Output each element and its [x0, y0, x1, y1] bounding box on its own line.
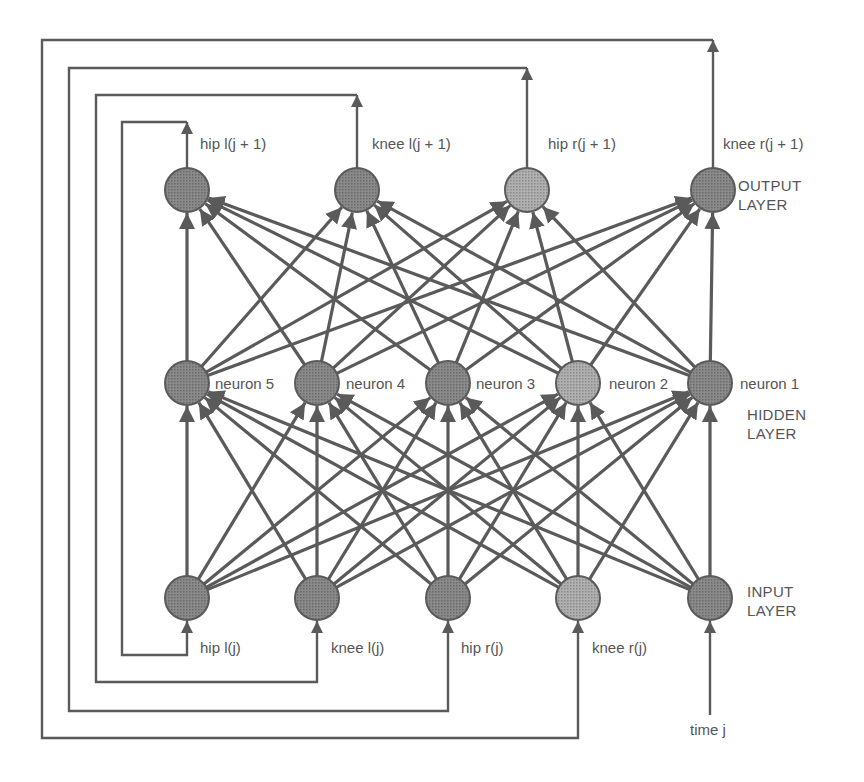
edge-h3-out1	[205, 204, 430, 370]
edge-h2-out1	[208, 200, 559, 373]
input-node-in2	[295, 576, 339, 620]
input-label-hip-r: hip r(j)	[461, 640, 504, 655]
edge-h1-out4	[710, 213, 712, 361]
hidden-label-neuron-4: neuron 4	[346, 376, 405, 391]
edge-h2-out3	[533, 212, 573, 361]
hidden-label-neuron-1: neuron 1	[740, 376, 799, 391]
hidden-label-neuron-2: neuron 2	[609, 376, 668, 391]
input-node-in1	[165, 576, 209, 620]
output-label-hip-r: hip r(j + 1)	[548, 136, 616, 151]
output-node-out2	[335, 168, 379, 212]
output-node-out1	[165, 168, 209, 212]
network-diagram	[0, 0, 864, 782]
edge-h4-out1	[200, 209, 305, 365]
edge-h4-out2	[321, 213, 352, 362]
edge-h4-out3	[333, 206, 510, 369]
output-label-knee-r: knee r(j + 1)	[723, 136, 803, 151]
input-node-in3	[426, 576, 470, 620]
hidden-node-h2	[556, 361, 600, 405]
output-layer-title-line2: LAYER	[738, 195, 801, 214]
hidden-layer-title-line2: LAYER	[747, 424, 806, 443]
hidden-node-h5	[165, 361, 209, 405]
input-label-knee-r: knee r(j)	[592, 640, 647, 655]
output-node-out4	[691, 168, 735, 212]
input-layer-title-line1: INPUT	[747, 582, 797, 601]
input-layer-title: INPUT LAYER	[747, 582, 797, 620]
hidden-label-neuron-5: neuron 5	[215, 376, 274, 391]
hidden-node-h1	[688, 361, 732, 405]
input-label-knee-l: knee l(j)	[331, 640, 384, 655]
hidden-node-h4	[295, 361, 339, 405]
input-label-hip-l: hip l(j)	[200, 640, 241, 655]
hidden-layer-title: HIDDEN LAYER	[747, 405, 806, 443]
output-label-knee-l: knee l(j + 1)	[372, 136, 451, 151]
input-node-in5	[688, 576, 732, 620]
hidden-label-neuron-3: neuron 3	[476, 376, 535, 391]
output-layer-title-line1: OUTPUT	[738, 176, 801, 195]
output-layer-title: OUTPUT LAYER	[738, 176, 801, 214]
output-label-hip-l: hip l(j + 1)	[200, 136, 266, 151]
input-layer-title-line2: LAYER	[747, 601, 797, 620]
hidden-node-h3	[426, 361, 470, 405]
input-label-time: time j	[690, 722, 726, 737]
output-node-out3	[505, 168, 549, 212]
edge-h4-out4	[337, 200, 693, 373]
input-node-in4	[556, 576, 600, 620]
hidden-layer-title-line1: HIDDEN	[747, 405, 806, 424]
edge-h1-out3	[543, 207, 695, 367]
edge-h2-out4	[591, 209, 700, 365]
